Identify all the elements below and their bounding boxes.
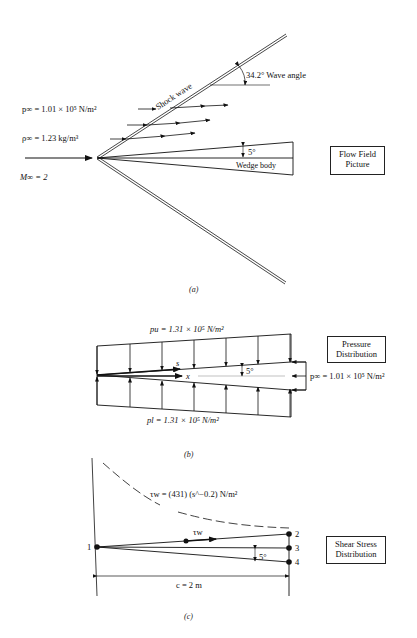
panel-a-flow-field: p∞ = 1.01 × 10⁵ N/m² ρ∞ = 1.23 kg/m³ M∞ …	[19, 34, 306, 284]
point-2-label: 2	[295, 529, 299, 539]
pressure-box-line2: Distribution	[328, 349, 385, 359]
shear-stress-distribution-box: Shear Stress Distribution	[326, 536, 386, 564]
panel-c-shear-stress: τw = (431) (s^−0.2) N/m² τw 5° c = 2 m 1…	[87, 458, 300, 596]
x-axis-label: x	[185, 371, 190, 381]
caption-a: (a)	[189, 285, 198, 294]
shear-stress-vector	[186, 539, 216, 541]
caption-b: (b)	[184, 450, 193, 459]
wedge-body	[97, 142, 293, 175]
pressure-distribution-box: Pressure Distribution	[327, 336, 386, 363]
pressure-box-line1: Pressure	[328, 339, 385, 349]
shear-axis-line	[92, 458, 97, 596]
upper-pressure-label: pu = 1.31 × 10⁵ N/m²	[149, 324, 224, 334]
half-angle-label-c: 5°	[259, 552, 267, 562]
wave-angle-arc	[239, 66, 245, 85]
shear-point-marker	[184, 539, 189, 544]
lower-pressure-label: pl = 1.31 × 10⁵ N/m²	[146, 415, 219, 425]
point-4	[286, 559, 292, 565]
chord-label: c = 2 m	[176, 580, 202, 590]
half-angle-label-b: 5°	[246, 366, 254, 376]
wedge-body-label: Wedge body	[236, 161, 276, 170]
flow-field-box-line1: Flow Field	[331, 149, 384, 159]
shear-formula-label: τw = (431) (s^−0.2) N/m²	[150, 489, 238, 499]
point-4-label: 4	[295, 557, 300, 567]
point-3-label: 3	[295, 543, 299, 553]
point-3	[286, 545, 292, 551]
base-pressure-label: p∞ = 1.01 × 10⁵ N/m²	[310, 371, 385, 381]
caption-c: (c)	[184, 612, 193, 621]
s-axis-label: s	[176, 358, 180, 368]
freestream-pressure-label: p∞ = 1.01 × 10⁵ N/m²	[22, 104, 97, 114]
s-axis-arrow	[97, 369, 180, 375]
shear-box-line1: Shear Stress	[327, 539, 385, 549]
shock-wave-upper	[97, 34, 287, 159]
flow-field-picture-box: Flow Field Picture	[330, 146, 385, 175]
half-angle-label-a: 5°	[248, 147, 256, 157]
point-1-label: 1	[87, 542, 91, 552]
shear-vector-label: τw	[193, 527, 203, 537]
freestream-density-label: ρ∞ = 1.23 kg/m³	[22, 133, 79, 143]
flow-field-box-line2: Picture	[331, 159, 384, 169]
shear-box-line2: Distribution	[327, 549, 385, 559]
point-1	[94, 544, 100, 550]
wave-angle-label: 34.2° Wave angle	[246, 70, 306, 80]
point-2	[286, 531, 292, 537]
shock-wave-lower	[97, 157, 286, 284]
base-pressure-arrows	[292, 362, 306, 390]
freestream-mach-label: M∞ = 2	[19, 172, 48, 182]
